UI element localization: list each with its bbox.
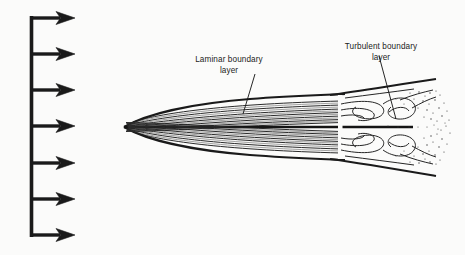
transition-gap bbox=[338, 95, 343, 159]
laminar-boundary-layer-label: Laminar boundary layer bbox=[186, 55, 272, 76]
boundary-layer-figure: Laminar boundary layer Turbulent boundar… bbox=[0, 0, 465, 255]
turbulent-boundary-layer-label: Turbulent boundary layer bbox=[335, 42, 427, 63]
figure-canvas bbox=[0, 0, 465, 255]
